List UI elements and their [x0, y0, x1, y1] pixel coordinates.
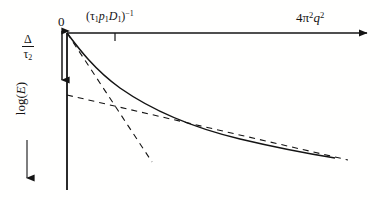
x-tick-label: (τ1p1D1)−1	[86, 10, 134, 24]
tau-subscript: 2	[28, 53, 32, 62]
x-axis-title: 4π2q2	[296, 11, 324, 24]
plot-canvas	[0, 0, 389, 200]
slow-component-asymptote	[67, 95, 348, 160]
xtick-exponent: −1	[125, 9, 133, 18]
figure-echo-attenuation-plot: 0 (τ1p1D1)−1 4π2q2 Δ τ2 log(E)	[0, 0, 389, 200]
energy-variable: E	[13, 86, 28, 94]
tau2-denominator: τ2	[22, 47, 34, 62]
delta-numerator: Δ	[22, 33, 34, 47]
origin-label: 0	[58, 15, 65, 28]
xaxis-q-exponent: 2	[320, 10, 324, 20]
echo-decay-curve	[67, 33, 335, 158]
delta-over-tau2-label: Δ τ2	[22, 33, 34, 62]
log-text: log(	[13, 94, 28, 115]
y-axis-title: log(E)	[14, 76, 27, 122]
log-close-paren: )	[13, 82, 28, 86]
